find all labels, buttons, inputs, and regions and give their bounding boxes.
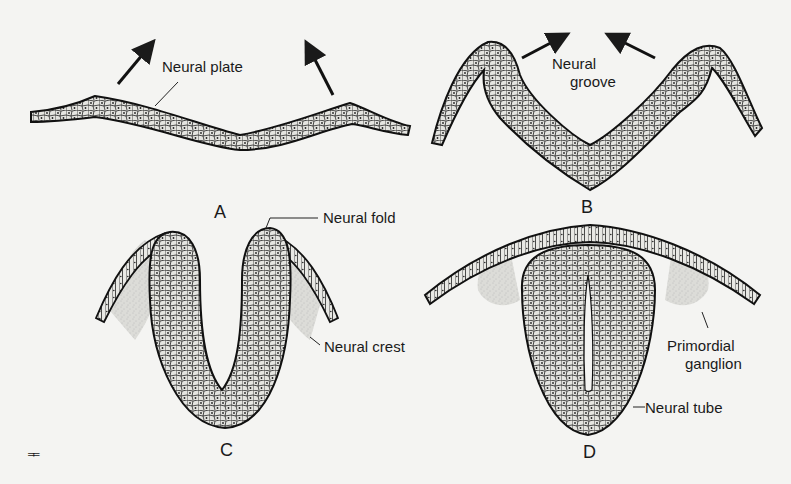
label-primordial-ganglion-line2: ganglion: [685, 355, 742, 372]
panel-label-d: D: [583, 442, 596, 463]
panel-label-c: C: [220, 440, 233, 461]
leader-line: [310, 337, 320, 345]
label-neural-groove-line2: groove: [570, 73, 616, 90]
leader-line: [155, 82, 178, 106]
leader-line: [702, 312, 708, 328]
label-neural-groove-line1: Neural: [552, 55, 596, 72]
panel-c-neural-fold: [96, 218, 338, 428]
corner-mark: ᆍ: [27, 446, 40, 463]
panel-label-a: A: [214, 202, 226, 223]
label-neural-fold: Neural fold: [323, 209, 396, 226]
panel-b-neural-groove: [432, 38, 762, 190]
arrow-icon: [615, 38, 655, 58]
panel-label-b: B: [581, 197, 593, 218]
label-neural-plate: Neural plate: [162, 58, 243, 75]
label-primordial-ganglion-line1: Primordial: [667, 337, 735, 354]
arrow-icon: [118, 48, 148, 84]
arrow-icon: [310, 50, 333, 95]
label-neural-tube: Neural tube: [645, 399, 723, 416]
label-neural-crest: Neural crest: [324, 338, 405, 355]
